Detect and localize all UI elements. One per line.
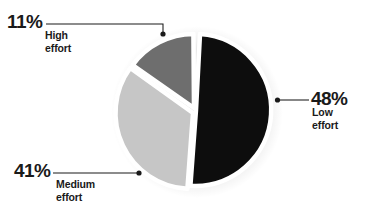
callout-low-effort-label-line2: effort	[312, 119, 338, 131]
leader-dot-medium-effort	[136, 170, 141, 175]
callout-low-effort-label: Low effort	[312, 106, 338, 131]
leader-dot-low-effort	[275, 97, 280, 102]
callout-medium-effort-label: Medium effort	[56, 178, 95, 203]
callout-medium-effort-label-line2: effort	[56, 191, 82, 203]
callout-high-effort-percent: 11%	[7, 12, 42, 31]
callout-high-effort-label: High effort	[45, 29, 71, 54]
pie-chart: 11% High effort 41% Medium effort 48% Lo…	[0, 0, 379, 218]
callout-high-effort-label-line1: High	[45, 29, 68, 41]
callout-medium-effort-percent: 41%	[14, 161, 50, 180]
callout-medium-effort-label-line1: Medium	[56, 178, 95, 190]
callout-high-effort-label-line2: effort	[45, 42, 71, 54]
leader-dot-high-effort	[160, 31, 165, 36]
pie-slices	[116, 34, 272, 189]
callout-low-effort-label-line1: Low	[312, 106, 333, 118]
